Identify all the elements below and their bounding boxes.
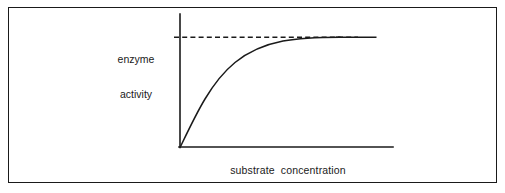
y-axis-label-line-1: enzyme [96, 54, 176, 66]
figure-root: enzyme activity substrate concentration [0, 0, 505, 193]
y-axis-label: enzyme activity [96, 31, 176, 123]
saturation-curve [180, 37, 340, 147]
y-axis-label-line-2: activity [96, 89, 176, 101]
x-axis-label: substrate concentration [180, 165, 396, 177]
